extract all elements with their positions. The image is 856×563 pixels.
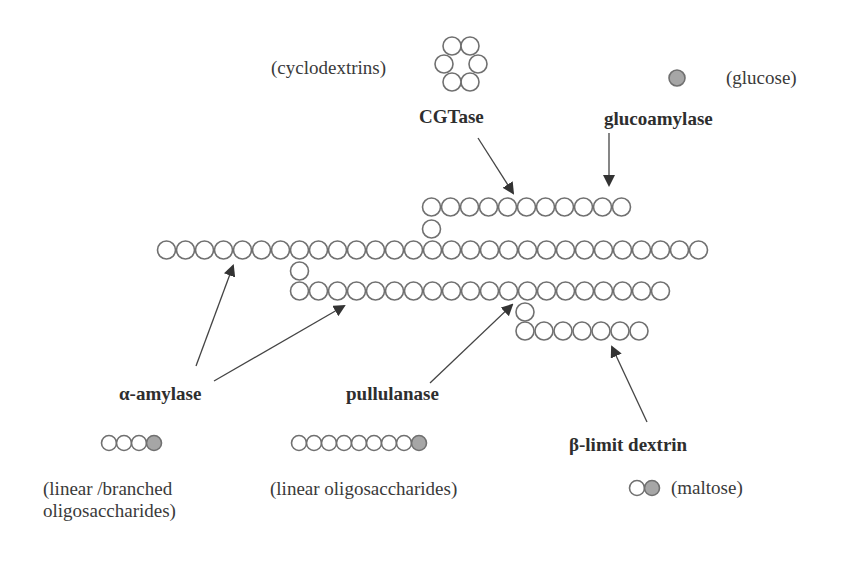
maltose-label: (maltose) bbox=[671, 477, 743, 499]
glucose-unit-main bbox=[329, 241, 347, 259]
cyclodextrin-unit bbox=[461, 37, 479, 55]
glucose-unit-top_branch bbox=[480, 198, 498, 216]
glucose-unit-third bbox=[573, 322, 591, 340]
cyclodextrin-ring-icon bbox=[435, 37, 487, 91]
glucose-unit-top_branch bbox=[613, 198, 631, 216]
glucose-unit-top_branch bbox=[461, 198, 479, 216]
reducing-end-unit-alpha_product bbox=[147, 436, 162, 451]
glucose-unit-main bbox=[348, 241, 366, 259]
product-unit-pullulanase_product bbox=[367, 436, 382, 451]
glucose-unit-third bbox=[535, 322, 553, 340]
product-unit-pullulanase_product bbox=[352, 436, 367, 451]
glucose-unit-third bbox=[554, 322, 572, 340]
reducing-end-unit-pullulanase_product bbox=[412, 436, 427, 451]
glucose-unit-second bbox=[519, 282, 537, 300]
cyclodextrin-unit bbox=[443, 37, 461, 55]
glucose-unit-second bbox=[500, 282, 518, 300]
cyclodextrin-unit bbox=[469, 55, 487, 73]
glucose-unit-main bbox=[519, 241, 537, 259]
glucose-unit-third bbox=[516, 322, 534, 340]
glucose-unit-main bbox=[576, 241, 594, 259]
glucose-unit-main bbox=[424, 241, 442, 259]
product-unit-pullulanase_product bbox=[397, 436, 412, 451]
product-unit-maltose bbox=[630, 481, 645, 496]
glucose-unit-top_branch bbox=[423, 198, 441, 216]
glucose-unit-top_branch bbox=[575, 198, 593, 216]
glucose-unit-third bbox=[611, 322, 629, 340]
branch-point-unit bbox=[291, 262, 309, 280]
glucose-unit-second bbox=[443, 282, 461, 300]
glucose-unit-second bbox=[614, 282, 632, 300]
glucose-unit-third bbox=[630, 322, 648, 340]
glucose-unit-top_branch bbox=[537, 198, 555, 216]
amylopectin-chains bbox=[158, 198, 708, 340]
glucose-unit-main bbox=[215, 241, 233, 259]
glucose-unit-main bbox=[500, 241, 518, 259]
glucose-unit-second bbox=[462, 282, 480, 300]
product-unit-alpha_product bbox=[132, 436, 147, 451]
glucose-unit-second bbox=[557, 282, 575, 300]
glucose-unit-main bbox=[633, 241, 651, 259]
glucose-unit-second bbox=[367, 282, 385, 300]
glucose-unit-second bbox=[329, 282, 347, 300]
linear-oligosaccharides-label: (linear oligosaccharides) bbox=[270, 478, 457, 500]
glucose-unit-top_branch bbox=[594, 198, 612, 216]
glucose-unit-main bbox=[177, 241, 195, 259]
glucose-unit-main bbox=[291, 241, 309, 259]
glucose-unit-main bbox=[595, 241, 613, 259]
cyclodextrins-label: (cyclodextrins) bbox=[271, 57, 386, 79]
linear-branched-label-line2: oligosaccharides) bbox=[43, 500, 176, 522]
linear-branched-label-line1: (linear /branched bbox=[43, 478, 172, 500]
product-unit-alpha_product bbox=[117, 436, 132, 451]
glucose-unit-main bbox=[386, 241, 404, 259]
glucose-unit-main bbox=[367, 241, 385, 259]
glucose-unit-second bbox=[576, 282, 594, 300]
glucoamylase-label: glucoamylase bbox=[604, 108, 713, 130]
glucose-unit-main bbox=[196, 241, 214, 259]
glucose-unit-third bbox=[592, 322, 610, 340]
beta-limit-dextrin-label: β-limit dextrin bbox=[569, 434, 687, 456]
product-unit-pullulanase_product bbox=[382, 436, 397, 451]
glucose-unit-second bbox=[538, 282, 556, 300]
alpha-amylase-label: α-amylase bbox=[119, 383, 201, 405]
glucose-unit-main bbox=[652, 241, 670, 259]
glucose-unit-main bbox=[158, 241, 176, 259]
glucose-unit-top_branch bbox=[442, 198, 460, 216]
glucose-unit-second bbox=[652, 282, 670, 300]
branch-point-unit bbox=[516, 303, 534, 321]
alpha-amylase-arrow-2 bbox=[214, 306, 344, 381]
glucose-icon bbox=[669, 70, 685, 86]
alpha-amylase-arrow-1 bbox=[196, 266, 233, 366]
glucose-unit-second bbox=[405, 282, 423, 300]
cyclodextrin-unit bbox=[435, 55, 453, 73]
glucose-unit-main bbox=[443, 241, 461, 259]
branch-point-unit bbox=[423, 220, 441, 238]
glucose-label: (glucose) bbox=[726, 67, 797, 89]
glucose-unit-main bbox=[253, 241, 271, 259]
glucose-unit-main bbox=[671, 241, 689, 259]
glucose-unit-main bbox=[405, 241, 423, 259]
glucose-unit-main bbox=[690, 241, 708, 259]
cyclodextrin-unit bbox=[443, 73, 461, 91]
glucose-unit-second bbox=[481, 282, 499, 300]
cyclodextrin-unit bbox=[461, 73, 479, 91]
product-unit-pullulanase_product bbox=[307, 436, 322, 451]
glucose-unit-main bbox=[272, 241, 290, 259]
arrows bbox=[196, 133, 647, 422]
product-unit-pullulanase_product bbox=[292, 436, 307, 451]
product-unit-pullulanase_product bbox=[322, 436, 337, 451]
pullulanase-arrow bbox=[430, 305, 512, 383]
pullulanase-label: pullulanase bbox=[346, 383, 439, 405]
glucose-unit-main bbox=[462, 241, 480, 259]
glucose-unit-top_branch bbox=[499, 198, 517, 216]
cgtase-label: CGTase bbox=[419, 106, 484, 128]
glucose-dot-icon bbox=[669, 70, 685, 86]
glucose-unit-main bbox=[234, 241, 252, 259]
glucose-unit-second bbox=[386, 282, 404, 300]
glucose-unit-main bbox=[557, 241, 575, 259]
glucose-unit-second bbox=[310, 282, 328, 300]
product-unit-alpha_product bbox=[102, 436, 117, 451]
glucose-unit-top_branch bbox=[556, 198, 574, 216]
glucose-unit-main bbox=[481, 241, 499, 259]
reducing-end-unit-maltose bbox=[645, 481, 660, 496]
